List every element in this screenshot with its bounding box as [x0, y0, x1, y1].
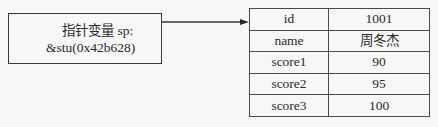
table-row: id 1001: [250, 9, 430, 31]
field-name-cell: name: [250, 30, 329, 52]
field-name-cell: score3: [250, 95, 329, 117]
field-name-cell: score2: [250, 73, 329, 95]
field-name-cell: id: [250, 9, 329, 31]
struct-memory-table: id 1001 name 周冬杰 score1 90 score2 95 sco…: [249, 8, 430, 117]
field-value-cell: 周冬杰: [329, 30, 430, 52]
table-row: score2 95: [250, 73, 430, 95]
field-value-cell: 90: [329, 52, 430, 74]
table-row: score3 100: [250, 95, 430, 117]
table-row: name 周冬杰: [250, 30, 430, 52]
table-row: score1 90: [250, 52, 430, 74]
field-name-cell: score1: [250, 52, 329, 74]
field-value-cell: 100: [329, 95, 430, 117]
field-value-cell: 95: [329, 73, 430, 95]
field-value-cell: 1001: [329, 9, 430, 31]
